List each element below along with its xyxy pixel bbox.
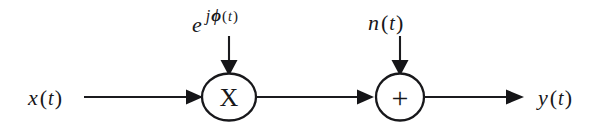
phase-exponential-label: ejϕ(t) [192, 6, 238, 37]
phase-wire [221, 36, 238, 76]
multiplier-node: X [202, 74, 256, 121]
output-signal-label-arg: t [558, 87, 564, 109]
signal-flow-diagram-figure: X + x(t) y(t) n [0, 0, 608, 131]
output-signal-label: y(t) [536, 85, 572, 110]
input-wire-arrowhead [186, 90, 203, 105]
phase-exponential-base: e [192, 12, 202, 37]
output-wire [425, 90, 524, 105]
output-wire-arrowhead [506, 90, 524, 105]
diagram-canvas: X + x(t) y(t) n [0, 0, 608, 131]
phase-exponential-sup-paren-close: ) [233, 8, 238, 25]
adder-node: + [376, 74, 424, 121]
noise-signal-label-paren-open: ( [381, 10, 388, 35]
adder-node-glyph: + [392, 81, 409, 114]
input-signal-label-paren-close: ) [55, 85, 62, 110]
input-signal-label-name: x [27, 85, 38, 110]
noise-wire [392, 36, 409, 76]
multiplier-node-glyph: X [220, 83, 239, 112]
mid-wire [257, 90, 374, 105]
noise-signal-label: n(t) [368, 10, 403, 35]
output-signal-label-name: y [536, 85, 548, 110]
noise-signal-label-arg: t [389, 12, 395, 34]
input-signal-label-arg: t [48, 87, 54, 109]
phase-exponential-sup-phi: ϕ [211, 6, 221, 25]
output-signal-label-paren-open: ( [550, 85, 557, 110]
input-wire [84, 90, 203, 105]
mid-wire-arrowhead [357, 90, 374, 105]
phase-exponential-sup-paren-open: ( [222, 8, 227, 25]
input-signal-label-paren-open: ( [40, 85, 47, 110]
noise-signal-label-paren-close: ) [396, 10, 403, 35]
noise-signal-label-name: n [368, 10, 379, 35]
phase-exponential-sup-j: j [204, 7, 211, 25]
output-signal-label-paren-close: ) [565, 85, 572, 110]
input-signal-label: x(t) [27, 85, 62, 110]
